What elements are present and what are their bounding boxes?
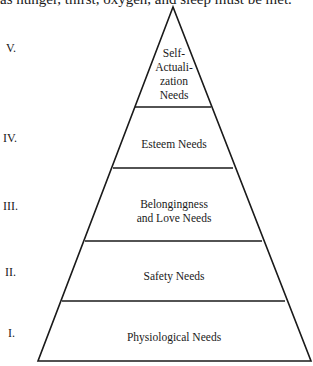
level-numeral-4: IV. [3, 131, 17, 146]
level-5-label: Self- Actuali- zation Needs [155, 46, 193, 102]
label-line: and Love Needs [137, 211, 212, 225]
level-2-label: Safety Needs [144, 269, 205, 283]
label-line: Self- [155, 46, 193, 60]
label-line: Actuali- [155, 60, 193, 74]
level-numeral-5: V. [6, 41, 16, 56]
level-numeral-3: III. [3, 199, 18, 214]
level-3-label: Belongingness and Love Needs [137, 197, 212, 225]
level-1-label: Physiological Needs [127, 330, 221, 344]
label-line: zation [155, 74, 193, 88]
label-line: Physiological Needs [127, 330, 221, 344]
label-line: Safety Needs [144, 269, 205, 283]
level-4-label: Esteem Needs [141, 137, 206, 151]
level-numeral-1: I. [8, 326, 15, 341]
label-line: Esteem Needs [141, 137, 206, 151]
level-numeral-2: II. [5, 265, 16, 280]
label-line: Needs [155, 88, 193, 102]
label-line: Belongingness [137, 197, 212, 211]
